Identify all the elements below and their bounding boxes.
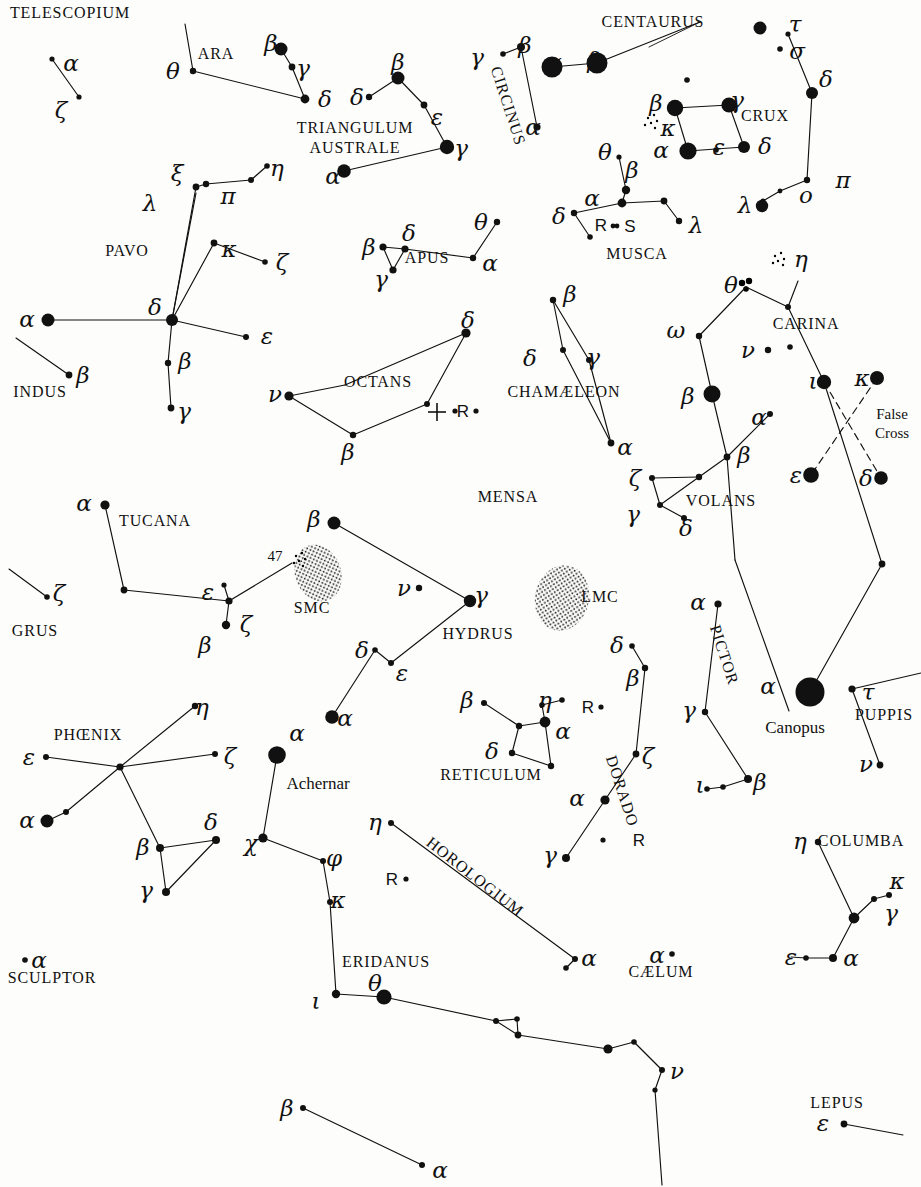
southern-sky-star-chart: TELESCOPIUMARATRIANGULUMAUSTRALECIRCINUS… <box>0 0 921 1187</box>
cluster-eta-carinae <box>772 252 785 266</box>
south-celestial-pole-marker <box>428 403 446 421</box>
cluster-kappa-crucis <box>644 114 658 129</box>
nebula-lmc <box>529 560 596 636</box>
star-field-svg <box>0 0 921 1187</box>
stars <box>22 22 892 1169</box>
nebula-smc <box>286 538 349 608</box>
cluster-theta-carinae <box>739 278 752 292</box>
